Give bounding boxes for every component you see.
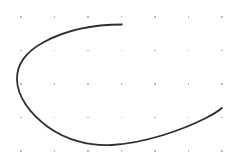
grid-dot: [87, 83, 88, 84]
grid-dot: [54, 150, 55, 151]
grid-dot: [20, 50, 21, 51]
grid-dot: [188, 16, 189, 17]
grid-dot: [20, 16, 21, 17]
grid-dot: [154, 117, 155, 118]
grid-dot: [221, 83, 222, 84]
grid-dot: [54, 50, 55, 51]
grid-dot: [54, 16, 55, 17]
grid-dot: [221, 117, 222, 118]
grid-dot: [54, 117, 55, 118]
grid-dot: [20, 150, 21, 151]
sketch-svg: [0, 0, 239, 168]
grid-dot: [20, 83, 21, 84]
grid-dot: [87, 16, 88, 17]
grid-dot: [121, 117, 122, 118]
sketch-canvas: [0, 0, 239, 168]
grid-dot: [188, 117, 189, 118]
grid-dot: [20, 117, 21, 118]
grid-dot: [154, 50, 155, 51]
grid-dot: [121, 83, 122, 84]
grid-dot: [221, 150, 222, 151]
grid-dot: [154, 83, 155, 84]
grid-dot: [221, 16, 222, 17]
grid-dot: [54, 83, 55, 84]
grid-dot: [87, 117, 88, 118]
grid-dot: [121, 16, 122, 17]
grid-dot: [154, 150, 155, 151]
grid-dot: [121, 50, 122, 51]
grid-dot: [188, 83, 189, 84]
grid-dot: [87, 150, 88, 151]
grid-dot: [188, 150, 189, 151]
grid-dot: [221, 50, 222, 51]
grid-dot: [154, 16, 155, 17]
grid-dot: [188, 50, 189, 51]
grid-dot: [121, 150, 122, 151]
grid-dot: [87, 50, 88, 51]
